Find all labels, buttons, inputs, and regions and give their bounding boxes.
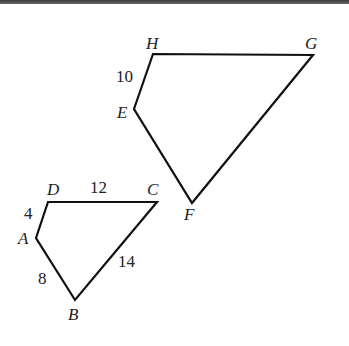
vertex-label-c: C — [147, 180, 159, 199]
vertex-label-h: H — [145, 34, 160, 53]
vertex-label-d: D — [46, 180, 60, 199]
quadrilateral-abcd — [36, 202, 157, 300]
quadrilateral-efgh — [134, 54, 313, 203]
vertex-label-g: G — [305, 34, 317, 53]
vertex-label-f: F — [183, 205, 195, 224]
figure-canvas: H G E F 10 D C A B 4 12 8 14 — [0, 0, 349, 346]
vertex-label-a: A — [17, 229, 29, 248]
vertex-label-b: B — [68, 305, 79, 324]
geometry-diagram: H G E F 10 D C A B 4 12 8 14 — [0, 0, 349, 346]
vertex-label-e: E — [116, 103, 128, 122]
side-label-bc: 14 — [118, 252, 136, 271]
side-label-he: 10 — [116, 67, 133, 86]
side-label-dc: 12 — [90, 178, 107, 197]
side-label-ab: 8 — [38, 269, 47, 288]
side-label-da: 4 — [24, 204, 33, 223]
